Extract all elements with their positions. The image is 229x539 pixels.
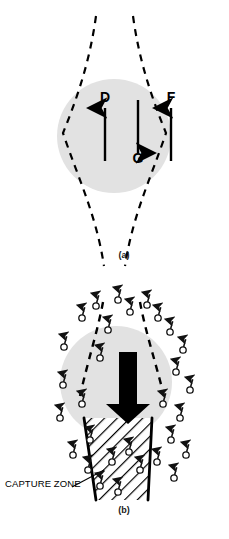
particle-body xyxy=(79,401,85,407)
particle-capture-figure xyxy=(0,0,229,539)
particle-body xyxy=(115,489,121,495)
particle-body xyxy=(171,475,177,481)
particle-body xyxy=(85,467,91,473)
panel-label-a: (a) xyxy=(104,250,144,260)
particle-body xyxy=(127,309,133,315)
particle-body xyxy=(87,437,93,443)
particle-body xyxy=(115,297,121,303)
particle-body xyxy=(126,449,132,455)
particle-body xyxy=(144,302,150,308)
particle-body xyxy=(109,459,115,465)
particle-body xyxy=(187,387,193,393)
panel-label-b: (b) xyxy=(104,505,144,515)
particle-body xyxy=(70,452,76,458)
particle-body xyxy=(160,401,166,407)
particle-body xyxy=(79,315,85,321)
force-label-drag: D xyxy=(95,89,115,105)
particle-body xyxy=(105,327,111,333)
capture-zone-region xyxy=(84,418,152,500)
particle-body xyxy=(180,347,186,353)
particle-body xyxy=(168,437,174,443)
particle-body xyxy=(97,483,103,489)
particle-body xyxy=(183,452,189,458)
force-label-field: F xyxy=(161,89,181,105)
particle-body xyxy=(137,467,143,473)
particle-body xyxy=(173,369,179,375)
particle-body xyxy=(97,355,103,361)
particle-body xyxy=(60,382,66,388)
particle-body xyxy=(154,459,160,465)
particle-body xyxy=(167,329,173,335)
particle-body xyxy=(93,303,99,309)
particle-body xyxy=(61,344,67,350)
particle-body xyxy=(155,315,161,321)
capture-zone-label: CAPTURE ZONE xyxy=(5,478,81,489)
particle-body xyxy=(57,415,63,421)
particle-body xyxy=(177,415,183,421)
force-label-gravity: G xyxy=(128,150,148,166)
